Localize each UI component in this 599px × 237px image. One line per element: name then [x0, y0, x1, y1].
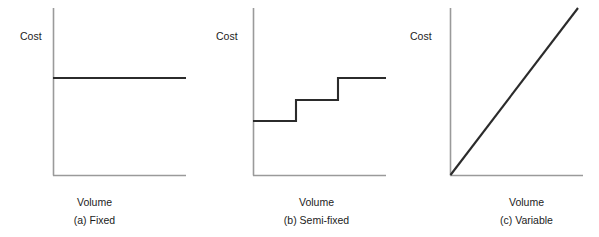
- semi-fixed-step-line: [253, 78, 386, 121]
- y-axis-label: Cost: [410, 30, 432, 43]
- variable-cost-line: [451, 8, 579, 175]
- panel-variable: Cost Volume (c) Variable: [396, 0, 595, 237]
- y-axis-label: Cost: [216, 30, 238, 43]
- y-axis-label: Cost: [20, 30, 42, 43]
- x-axis-label: Volume: [427, 196, 599, 209]
- x-axis-label: Volume: [0, 196, 194, 209]
- panel-caption: (c) Variable: [427, 214, 599, 227]
- panel-caption: (b) Semi-fixed: [217, 214, 416, 227]
- x-axis-label: Volume: [217, 196, 416, 209]
- chart-fixed: [0, 0, 199, 190]
- panel-caption: (a) Fixed: [0, 214, 194, 227]
- panel-fixed: Cost Volume (a) Fixed: [0, 0, 199, 237]
- chart-semi-fixed: [200, 0, 399, 190]
- cost-behaviour-figure: Cost Volume (a) Fixed Cost Volume (b) Se…: [0, 0, 599, 237]
- chart-variable: [396, 0, 599, 190]
- panel-semi-fixed: Cost Volume (b) Semi-fixed: [200, 0, 399, 237]
